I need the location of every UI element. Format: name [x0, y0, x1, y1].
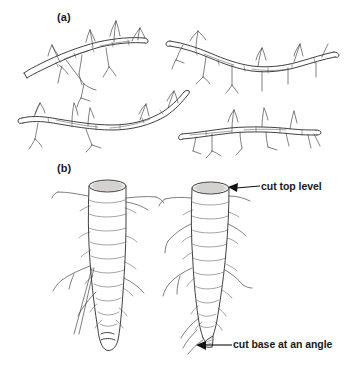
twig-bottom-left	[18, 90, 189, 152]
panel-label-b: (b)	[57, 162, 71, 174]
twig-bottom-right	[179, 108, 321, 158]
figure-container: (a) (b) cut top level cut base at an ang…	[0, 0, 353, 367]
twig-top-right	[166, 31, 339, 93]
panel-label-a: (a)	[57, 11, 71, 23]
callout-label-cut-top-level: cut top level	[261, 180, 322, 192]
callout-label-cut-base-at-an-angle: cut base at an angle	[233, 338, 332, 350]
root-cutting-left	[52, 180, 164, 351]
callout-cut-base-at-an-angle	[196, 341, 232, 350]
twig-top-left	[24, 21, 148, 107]
callout-cut-top-level	[228, 183, 260, 192]
root-cutting-right	[159, 182, 252, 354]
